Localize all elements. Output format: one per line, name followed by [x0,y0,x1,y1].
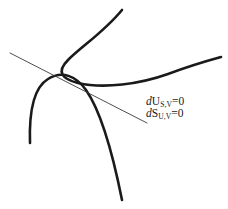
energy-surface-curve [62,10,221,86]
ds-label: dSU,V=0 [146,108,184,120]
ds-relation: =0 [171,107,183,119]
figure-canvas [0,0,228,209]
du-subscript: S,V [160,100,172,109]
du-relation: =0 [172,95,184,107]
du-variable: U [152,95,160,107]
ds-subscript: U,V [158,112,171,121]
entropy-surface-curve [30,75,122,200]
equilibrium-condition-labels: dUS,V=0 dSU,V=0 [146,96,184,119]
thermodynamic-equilibrium-figure: dUS,V=0 dSU,V=0 [0,0,228,209]
